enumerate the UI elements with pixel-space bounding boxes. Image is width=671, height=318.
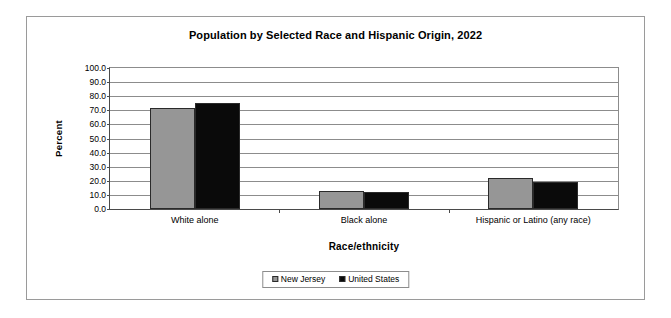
legend-label: United States <box>348 275 399 284</box>
x-axis-tick-label: Hispanic or Latino (any race) <box>476 216 591 225</box>
legend-swatch-icon <box>272 276 278 282</box>
y-axis-tick <box>107 68 110 69</box>
y-axis-tick-label: 30.0 <box>89 162 106 171</box>
y-axis-label: Percent <box>51 67 65 210</box>
y-axis-tick-label: 0.0 <box>94 205 106 214</box>
bar-new-jersey-hispanic-or-latino-any-race- <box>488 178 533 209</box>
y-axis-tick-label: 70.0 <box>89 106 106 115</box>
y-axis-tick-label: 60.0 <box>89 120 106 129</box>
chart-legend: New JerseyUnited States <box>262 271 409 288</box>
x-axis-tick <box>279 209 280 213</box>
y-axis-tick <box>107 153 110 154</box>
y-axis-tick <box>107 181 110 182</box>
chart-figure: Population by Selected Race and Hispanic… <box>26 16 645 300</box>
y-axis-tick-label: 90.0 <box>89 78 106 87</box>
legend-swatch-icon <box>339 276 345 282</box>
y-axis-tick <box>107 82 110 83</box>
y-axis-tick <box>107 209 110 210</box>
bar-united-states-hispanic-or-latino-any-race- <box>533 182 578 209</box>
gridline <box>110 82 618 83</box>
x-axis-tick <box>449 209 450 213</box>
y-axis-tick <box>107 124 110 125</box>
x-axis-tick-label: White alone <box>171 216 219 225</box>
x-axis-label: Race/ethnicity <box>109 241 619 252</box>
y-axis-tick-label: 100.0 <box>85 64 106 73</box>
bar-new-jersey-black-alone <box>319 191 364 209</box>
chart-title: Population by Selected Race and Hispanic… <box>27 29 644 41</box>
legend-item: United States <box>339 275 399 284</box>
y-axis-tick <box>107 195 110 196</box>
y-axis-tick <box>107 139 110 140</box>
legend-label: New Jersey <box>281 275 325 284</box>
y-axis-tick-label: 10.0 <box>89 191 106 200</box>
y-axis-tick-label: 80.0 <box>89 92 106 101</box>
y-axis-tick <box>107 96 110 97</box>
plot-area: 100.090.080.070.060.050.040.030.020.010.… <box>109 67 619 210</box>
y-axis-tick-label: 20.0 <box>89 177 106 186</box>
bar-united-states-white-alone <box>195 103 240 209</box>
y-axis-tick-label: 50.0 <box>89 134 106 143</box>
x-axis-tick-label: Black alone <box>341 216 388 225</box>
gridline <box>110 96 618 97</box>
y-axis-tick <box>107 167 110 168</box>
legend-item: New Jersey <box>272 275 325 284</box>
bar-new-jersey-white-alone <box>150 108 195 209</box>
y-axis-tick-label: 40.0 <box>89 148 106 157</box>
bar-united-states-black-alone <box>364 192 409 209</box>
y-axis-tick <box>107 110 110 111</box>
